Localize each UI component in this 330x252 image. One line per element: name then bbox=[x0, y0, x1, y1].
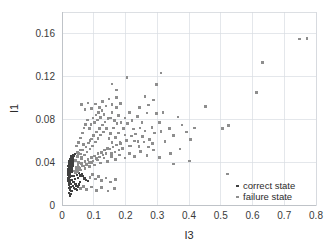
x-tick-label: 0 bbox=[59, 210, 65, 221]
y-tick-label: 0.08 bbox=[36, 114, 56, 125]
x-tick-label: 0.3 bbox=[150, 210, 164, 221]
scatter-chart: 00.10.20.30.40.50.60.70.8 00.040.080.120… bbox=[0, 0, 330, 252]
x-tick-label: 0.4 bbox=[182, 210, 196, 221]
x-tick-label: 0.5 bbox=[214, 210, 228, 221]
chart-svg: 00.10.20.30.40.50.60.70.8 00.040.080.120… bbox=[0, 0, 330, 252]
legend-label: failure state bbox=[243, 191, 292, 202]
x-tick-label: 0.1 bbox=[87, 210, 101, 221]
x-tick-label: 0.2 bbox=[119, 210, 133, 221]
x-tick-label: 0.7 bbox=[277, 210, 291, 221]
y-tick-label: 0 bbox=[49, 200, 55, 211]
y-tick-label: 0.12 bbox=[36, 71, 56, 82]
x-axis-title: I3 bbox=[184, 229, 193, 241]
x-tick-label: 0.8 bbox=[309, 210, 323, 221]
y-tick-label: 0.16 bbox=[36, 28, 56, 39]
y-axis-title: I1 bbox=[8, 104, 20, 113]
x-tick-label: 0.6 bbox=[246, 210, 260, 221]
x-axis-tick-labels: 00.10.20.30.40.50.60.70.8 bbox=[59, 210, 323, 221]
legend-label: correct state bbox=[243, 180, 295, 191]
y-tick-label: 0.04 bbox=[36, 157, 56, 168]
legend-marker bbox=[236, 196, 239, 199]
y-axis-tick-labels: 00.040.080.120.16 bbox=[36, 28, 56, 211]
chart-legend: correct statefailure state bbox=[236, 180, 295, 202]
legend-marker bbox=[236, 185, 239, 188]
